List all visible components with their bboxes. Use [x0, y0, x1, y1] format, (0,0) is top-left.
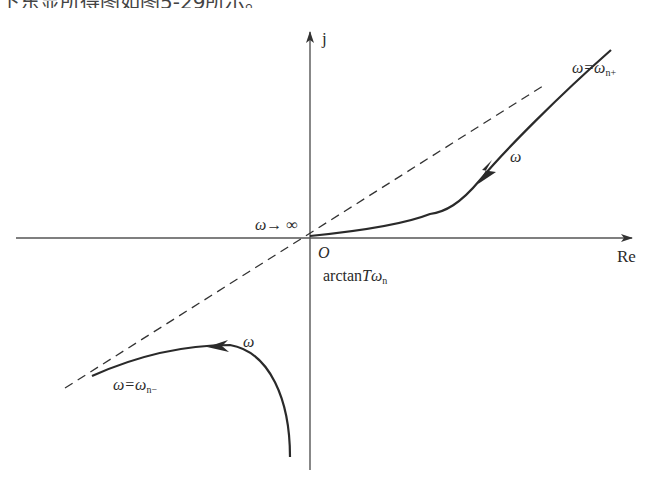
upper-branch-curve: [310, 50, 611, 236]
angle-label: arctanTωn: [323, 267, 387, 286]
omega-n-plus-label: ω=ωn+: [572, 59, 616, 78]
lower-branch-curve: [92, 345, 290, 457]
omega-n-minus-label: ω=ωn−: [113, 376, 157, 395]
imag-axis-label: j: [321, 29, 327, 48]
omega-upper-label: ω: [510, 148, 521, 165]
asymptote-line: [65, 84, 546, 388]
omega-infinity-label: ω→ ∞: [255, 216, 298, 233]
real-axis-label: Re: [617, 247, 636, 266]
omega-lower-label: ω: [243, 333, 254, 350]
origin-label: O: [318, 244, 330, 261]
nyquist-diagram: j Re O ω→ ∞ arctanTωn ω=ωn+ ω=ωn− ω ω: [0, 0, 652, 491]
